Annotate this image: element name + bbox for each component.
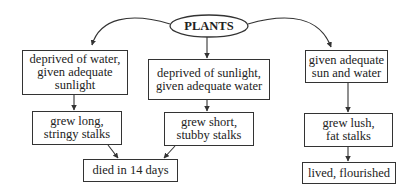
root-node-plants: PLANTS bbox=[170, 15, 248, 37]
node-deprived-of-water: deprived of water, given adequate sunlig… bbox=[22, 50, 128, 95]
node-lush-fat-stalks: grew lush, fat stalks bbox=[304, 113, 393, 147]
node-short-stubby-stalks: grew short, stubby stalks bbox=[164, 112, 254, 146]
edge-n5-n6 bbox=[164, 146, 175, 158]
node-long-stringy-stalks: grew long, stringy stalks bbox=[32, 111, 122, 145]
node-died-14-days: died in 14 days bbox=[83, 159, 178, 182]
node-lived-flourished: lived, flourished bbox=[302, 162, 396, 184]
node-adequate-sun-water: given adequate sun and water bbox=[305, 50, 388, 83]
edge-root-n3 bbox=[248, 18, 331, 47]
edge-root-n1 bbox=[92, 18, 170, 45]
edge-n4-n6 bbox=[108, 145, 118, 158]
node-deprived-of-sunlight: deprived of sunlight, given adequate wat… bbox=[148, 59, 270, 100]
